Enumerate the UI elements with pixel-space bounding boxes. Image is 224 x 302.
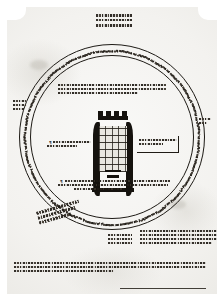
text-line <box>53 141 91 143</box>
text-line <box>13 104 27 106</box>
tower-brickwork <box>99 126 127 172</box>
heading-line <box>96 19 132 21</box>
scan-corner-top-left <box>0 0 26 20</box>
text-line <box>58 92 138 94</box>
scan-corner-top-right <box>198 0 224 20</box>
text-line <box>140 234 218 236</box>
text-line <box>58 88 166 90</box>
heading-line <box>96 24 132 27</box>
left-margin-note: the <box>13 100 27 112</box>
heading-line <box>96 14 132 17</box>
text-line <box>108 234 132 236</box>
inner-bottom-text: the ferthe degree is that that is the ro… <box>58 180 168 192</box>
text-line <box>58 184 168 186</box>
text-line <box>65 180 170 182</box>
bottom-horizontal-rule <box>120 288 206 289</box>
scan-margin-top <box>0 0 224 7</box>
text-line <box>108 238 132 240</box>
text-line <box>199 122 207 124</box>
text-line <box>139 143 163 145</box>
text-line <box>74 188 125 190</box>
right-margin-note: the <box>199 118 211 126</box>
crenel-1 <box>98 111 103 117</box>
text-line <box>140 230 218 232</box>
text-line <box>47 145 77 147</box>
inner-right-text: that is the foundement <box>139 139 177 147</box>
scan-margin-bottom <box>0 294 224 302</box>
bottom-label-block: Mekenes <box>108 234 132 246</box>
smudge <box>30 60 48 70</box>
crenel-2 <box>106 111 111 117</box>
text-line <box>14 270 114 272</box>
text-line <box>140 242 212 244</box>
text-line <box>199 118 211 120</box>
crenel-4 <box>122 111 127 117</box>
text-line <box>14 266 206 268</box>
ring-glyph <box>106 50 114 53</box>
text-line <box>13 100 27 102</box>
text-line <box>58 84 166 86</box>
bottom-note-block: These ben the foure degrees of the <box>140 230 218 246</box>
inner-top-text: the firste degree of the tour of wisdom … <box>58 84 166 96</box>
text-line <box>14 262 206 264</box>
tower-gate <box>105 170 121 178</box>
text-line <box>140 238 218 240</box>
scan-margin-left <box>0 0 7 302</box>
bottom-paragraph: I am makyng that the thre vertues that b… <box>14 262 206 274</box>
diagram-heading: Cheuelrye <box>96 14 132 30</box>
manuscript-page: Cheuelrye Here bigynneth the descripciou… <box>0 0 224 302</box>
inner-left-text: the thridde degree <box>47 141 89 149</box>
text-line <box>13 108 24 110</box>
crenel-3 <box>114 111 119 117</box>
text-line <box>139 139 177 141</box>
text-line <box>108 242 132 244</box>
scan-margin-right <box>217 0 224 302</box>
